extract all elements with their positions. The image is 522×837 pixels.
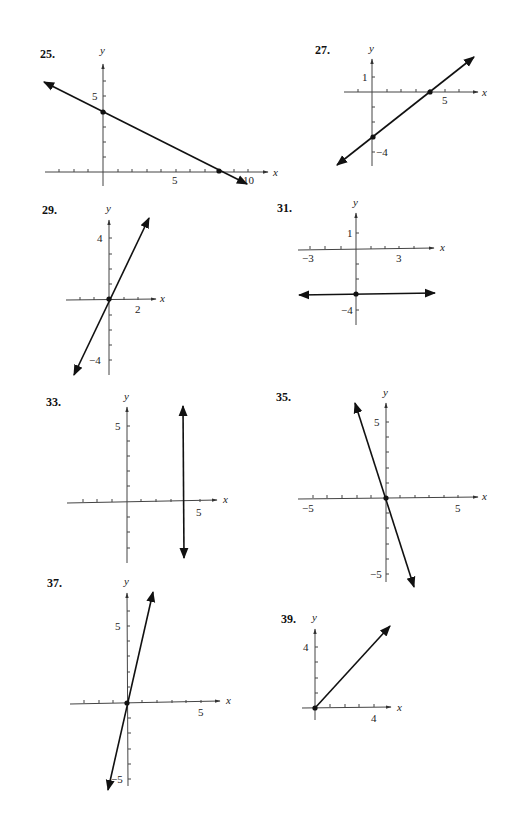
x-axis-label: x [481,86,487,98]
tick-label: 5 [442,94,448,106]
graph-31: 31. y x 1 −4 −3 3 [277,196,445,325]
x-axis [70,701,220,704]
y-axis-label: y [368,42,374,54]
tick-label: 5 [115,620,121,632]
graph-37: 37. y x 5 −5 5 [47,575,231,790]
y-axis-label: y [105,202,111,214]
graph-ray [315,626,390,708]
intercept-point [353,291,358,296]
problem-number: 25. [40,47,55,61]
problem-number: 33. [46,395,61,409]
tick-label: 5 [172,174,178,186]
tick-label: 5 [115,420,121,432]
graph-line [355,403,414,587]
problem-number: 37. [47,576,62,590]
x-axis-label: x [225,694,231,706]
graph-line [299,293,435,295]
problem-number: 35. [276,390,291,404]
problem-number: 29. [42,203,57,217]
problem-number: 31. [277,201,292,215]
intercept-point [370,134,375,139]
x-axis-label: x [272,166,278,178]
tick-label: −4 [376,146,388,158]
y-axis-label: y [123,575,129,587]
y-axis-label: y [123,390,129,402]
graph-line [74,218,149,375]
x-axis-label: x [159,292,165,304]
tick-label: 5 [92,90,98,102]
x-axis-label: x [481,490,487,502]
graph-line [183,406,184,558]
y-axis [127,593,128,786]
tick-label: 5 [198,706,204,718]
tick-label: 1 [362,71,368,83]
tick-label: 4 [303,641,309,653]
tick-label: 10 [243,174,255,186]
graph-line [337,57,474,165]
tick-label: 5 [455,502,461,514]
tick-label: 4 [371,712,377,724]
tick-label: −5 [302,502,314,514]
graph-33: 33. y x 5 5 [46,390,228,563]
tick-label: 5 [374,416,380,428]
x-axis-label: x [439,241,445,253]
tick-label: 5 [196,506,202,518]
intercept-point [427,89,432,94]
graph-35: 35. y x 5 −5 −5 5 [276,386,487,587]
tick-label: −5 [111,773,123,785]
answer-graphs: 25. y x 5 5 10 27. y x 1 −4 5 [0,0,522,837]
graph-29: 29. y x 4 −4 2 [42,202,165,375]
y-axis-label: y [99,44,105,56]
tick-label: −3 [302,252,314,264]
graph-line [44,82,247,184]
tick-label: 4 [97,232,103,244]
y-axis-label: y [382,386,388,398]
problem-number: 27. [315,43,330,57]
origin-point [383,495,388,500]
intercept-point [100,109,105,114]
y-axis-label: y [352,196,358,208]
x-axis-label: x [396,701,402,713]
problem-number: 39. [281,612,296,626]
x-axis [67,500,217,503]
graph-27: 27. y x 1 −4 5 [315,42,487,166]
tick-label: 3 [396,252,402,264]
y-axis-label: y [311,611,317,623]
intercept-point [216,168,221,173]
origin-point [106,296,111,301]
graph-25: 25. y x 5 5 10 [40,44,278,186]
x-axis-label: x [222,493,228,505]
tick-label: −4 [89,354,101,366]
tick-label: −4 [341,304,353,316]
tick-label: −5 [370,568,382,580]
graph-39: 39. y x 4 4 [281,611,402,724]
tick-label: 2 [135,303,141,315]
origin-point [312,705,317,710]
origin-point [124,700,129,705]
tick-label: 1 [347,227,353,239]
